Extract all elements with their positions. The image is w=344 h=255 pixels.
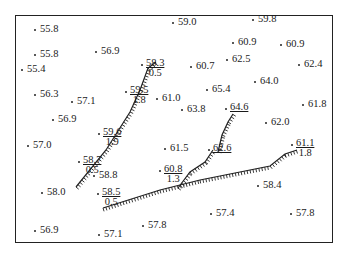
- spot-height: 60.9: [232, 36, 256, 47]
- point-marker-icon: [280, 44, 282, 46]
- spot-height-value: 60.9: [238, 36, 256, 47]
- spot-height-value: 65.4: [212, 83, 230, 94]
- spot-height-value: 61.5: [170, 142, 188, 153]
- point-marker-icon: [34, 94, 36, 96]
- spot-height: 60.7: [190, 60, 214, 71]
- spot-height-value: 59.0: [178, 16, 196, 27]
- spot-height-value: 57.4: [216, 207, 234, 218]
- point-marker-icon: [172, 22, 174, 24]
- spot-height-value: 62.4: [304, 58, 322, 69]
- spot-height-value: 58.8: [99, 169, 117, 180]
- fraction-label: 64.6: [230, 102, 248, 112]
- spot-height-value: 57.1: [104, 228, 122, 239]
- relative-height-value: 1.8: [130, 95, 148, 105]
- spot-height-value: 56.9: [58, 113, 76, 124]
- spot-height-value: 57.0: [33, 139, 51, 150]
- spot-height: 57.1: [71, 95, 95, 106]
- spot-height-value: 57.8: [148, 219, 166, 230]
- spot-height-value: 56.3: [40, 88, 58, 99]
- point-marker-icon: [98, 234, 100, 236]
- point-marker-icon: [95, 51, 97, 53]
- spot-height: 55.8: [34, 23, 58, 34]
- spot-height-value: 61.8: [308, 98, 326, 109]
- spot-height: 61.0: [156, 92, 180, 103]
- point-marker-icon: [98, 133, 100, 135]
- point-marker-icon: [34, 29, 36, 31]
- spot-height: 58.4: [257, 179, 281, 190]
- spot-height: 57.1: [98, 228, 122, 239]
- spot-height-value: 59.8: [258, 13, 276, 24]
- spot-height: 65.4: [206, 83, 230, 94]
- spot-height-value: 58.4: [263, 179, 281, 190]
- spot-height: 57.0: [27, 139, 51, 150]
- relative-height-value: 1.8: [296, 148, 314, 158]
- point-marker-icon: [210, 213, 212, 215]
- point-marker-icon: [125, 91, 127, 93]
- spot-height: 62.0: [265, 116, 289, 127]
- relative-height-value: 1.9: [103, 137, 121, 147]
- point-marker-icon: [21, 69, 23, 71]
- point-marker-icon: [52, 119, 54, 121]
- spot-height-value: 60.7: [196, 60, 214, 71]
- spot-height: 63.8: [181, 103, 205, 114]
- spot-height: 57.8: [142, 219, 166, 230]
- spot-height-value: 57.8: [296, 207, 314, 218]
- spot-height-value: 64.0: [260, 75, 278, 86]
- spot-height-value: 62.5: [232, 53, 250, 64]
- point-marker-icon: [34, 54, 36, 56]
- elevation-value: 62.6: [213, 143, 231, 153]
- spot-height-value: 63.8: [187, 103, 205, 114]
- spot-height-value: 57.1: [77, 95, 95, 106]
- point-marker-icon: [181, 109, 183, 111]
- point-marker-icon: [265, 122, 267, 124]
- point-marker-icon: [208, 149, 210, 151]
- fraction-label: 58.50.5: [102, 187, 120, 207]
- point-marker-icon: [164, 148, 166, 150]
- point-marker-icon: [78, 161, 80, 163]
- spot-height-value: 55.8: [40, 48, 58, 59]
- spot-height-value: 55.8: [40, 23, 58, 34]
- fraction-label: 59.61.9: [103, 127, 121, 147]
- fraction-label: 58.30.5: [146, 58, 164, 78]
- spot-height: 55.8: [34, 48, 58, 59]
- spot-height: 58.0: [41, 186, 65, 197]
- spot-height: 56.9: [34, 224, 58, 235]
- point-marker-icon: [225, 108, 227, 110]
- point-marker-icon: [41, 192, 43, 194]
- spot-height: 57.8: [290, 207, 314, 218]
- spot-height-value: 56.9: [40, 224, 58, 235]
- spot-height-value: 56.9: [101, 45, 119, 56]
- relative-height-value: 0.5: [102, 197, 120, 207]
- point-marker-icon: [156, 98, 158, 100]
- relative-height-value: 1.3: [164, 174, 182, 184]
- spot-height-value: 62.0: [271, 116, 289, 127]
- point-marker-icon: [252, 19, 254, 21]
- spot-height-value: 61.0: [162, 92, 180, 103]
- spot-height: 56.9: [95, 45, 119, 56]
- spot-height-value: 60.9: [286, 38, 304, 49]
- point-marker-icon: [257, 185, 259, 187]
- spot-height: 62.5: [226, 53, 250, 64]
- point-marker-icon: [159, 170, 161, 172]
- spot-height: 60.9: [280, 38, 304, 49]
- fraction-label: 62.6: [213, 143, 231, 153]
- fraction-label: 58.70.5: [83, 155, 101, 175]
- spot-height: 57.4: [210, 207, 234, 218]
- relative-height-value: 0.5: [146, 68, 164, 78]
- point-marker-icon: [232, 42, 234, 44]
- fraction-label: 59.51.8: [130, 85, 148, 105]
- point-marker-icon: [71, 101, 73, 103]
- point-marker-icon: [302, 104, 304, 106]
- spot-height: 55.4: [21, 63, 45, 74]
- spot-height: 64.0: [254, 75, 278, 86]
- spot-height: 56.9: [52, 113, 76, 124]
- point-marker-icon: [254, 81, 256, 83]
- point-marker-icon: [291, 144, 293, 146]
- point-marker-icon: [34, 230, 36, 232]
- fraction-label: 61.11.8: [296, 138, 314, 158]
- fraction-label: 60.81.3: [164, 164, 182, 184]
- spot-height: 59.0: [172, 16, 196, 27]
- point-marker-icon: [190, 66, 192, 68]
- point-marker-icon: [141, 64, 143, 66]
- point-marker-icon: [97, 193, 99, 195]
